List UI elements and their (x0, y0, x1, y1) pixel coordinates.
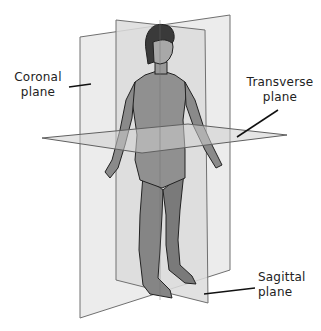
sagittal-label-line1: Sagittal (258, 270, 310, 285)
coronal-label-line1: Coronal (12, 70, 64, 85)
coronal-plane-label: Coronal plane (12, 70, 64, 100)
sagittal-leader-line (204, 288, 255, 294)
transverse-plane-label: Transverse plane (245, 75, 315, 105)
coronal-label-line2: plane (12, 85, 64, 100)
transverse-label-line1: Transverse (245, 75, 315, 90)
sagittal-label-line2: plane (258, 285, 310, 300)
transverse-label-line2: plane (245, 90, 315, 105)
sagittal-plane-label: Sagittal plane (258, 270, 310, 300)
